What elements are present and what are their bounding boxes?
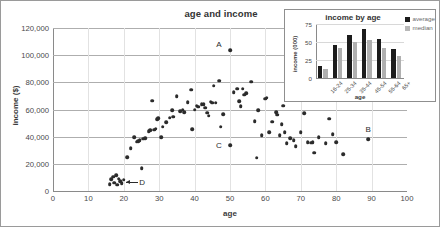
inset-bar-median (367, 40, 371, 78)
inset-category-label: 65+ (401, 80, 412, 91)
scatter-point (218, 79, 222, 83)
scatter-point (281, 104, 285, 108)
inset-bar-average (347, 35, 351, 78)
scatter-point (172, 115, 176, 119)
main-x-axis-line (53, 191, 407, 192)
scatter-point (271, 120, 275, 124)
inset-bar-average (391, 49, 395, 78)
gridline-vertical (230, 28, 231, 191)
x-axis-tick-label: 20 (120, 194, 129, 203)
x-axis-tick-label: 0 (51, 194, 55, 203)
inset-legend-item-median: median (405, 24, 433, 31)
inset-y-tick-label: 75 (296, 21, 312, 28)
inset-bar-average (318, 66, 322, 78)
scatter-point (191, 128, 195, 132)
scatter-point (285, 142, 289, 146)
scatter-point (267, 130, 271, 134)
scatter-point (278, 133, 282, 137)
scatter-point (154, 127, 158, 131)
inset-legend-label: average (413, 15, 435, 22)
scatter-point (327, 117, 331, 121)
scatter-point (366, 138, 370, 142)
inset-bar-median (382, 48, 386, 78)
scatter-point (207, 114, 211, 118)
gridline-vertical (159, 28, 160, 191)
scatter-point (212, 84, 216, 88)
scatter-point (175, 95, 179, 99)
x-axis-tick-label: 70 (297, 194, 306, 203)
scatter-point (120, 182, 124, 186)
inset-y-tick-label: 25 (296, 57, 312, 64)
scatter-point (186, 101, 190, 105)
point-annotation-c: C (216, 141, 222, 150)
gridline-vertical (265, 28, 266, 191)
scatter-point (265, 96, 269, 100)
scatter-point (228, 144, 232, 148)
scatter-point (292, 138, 296, 142)
point-annotation-d: D (139, 178, 145, 187)
point-annotation-a: A (216, 40, 221, 49)
inset-gridline (316, 24, 404, 25)
inset-bar-median (397, 56, 401, 78)
inset-bar-median (353, 42, 357, 78)
scatter-point (317, 135, 321, 139)
inset-bar-chart: income by age income (000) age 0255075 1… (284, 9, 436, 102)
scatter-point (150, 99, 154, 103)
x-axis-tick-label: 40 (190, 194, 199, 203)
y-axis-tick-label: 60,000 (3, 105, 49, 114)
scatter-point (160, 136, 164, 140)
scatter-point (294, 144, 298, 148)
y-axis-tick-label: 100,000 (3, 51, 49, 60)
scatter-point (161, 125, 165, 129)
x-axis-tick-label: 60 (261, 194, 270, 203)
x-axis-tick-label: 30 (155, 194, 164, 203)
scatter-point (249, 80, 253, 84)
scatter-point (232, 90, 236, 94)
scatter-point (303, 112, 307, 116)
chart-frame: age and income income ($) age 020,00040,… (0, 0, 440, 227)
scatter-point (276, 113, 280, 117)
scatter-point (221, 112, 225, 116)
scatter-point (244, 92, 248, 96)
scatter-point (235, 87, 239, 91)
point-annotation-b: B (365, 125, 370, 134)
scatter-point (239, 104, 243, 108)
scatter-point (334, 140, 338, 144)
scatter-point (140, 167, 144, 171)
scatter-point (126, 156, 130, 160)
scatter-point (237, 99, 241, 103)
inset-chart-title: income by age (299, 13, 407, 22)
x-axis-tick-label: 80 (332, 194, 341, 203)
scatter-point (253, 120, 257, 124)
scatter-point (324, 141, 328, 145)
scatter-point (182, 111, 186, 115)
scatter-point (193, 108, 197, 112)
x-axis-tick-label: 50 (226, 194, 235, 203)
scatter-point (228, 49, 232, 53)
y-axis-tick-label: 80,000 (3, 78, 49, 87)
y-axis-tick-label: 0 (3, 187, 49, 196)
scatter-point (283, 130, 287, 134)
inset-legend-label: median (413, 24, 433, 31)
scatter-point (311, 140, 315, 144)
scatter-point (299, 131, 303, 135)
inset-y-tick-label: 50 (296, 39, 312, 46)
scatter-point (157, 116, 161, 120)
scatter-point (255, 156, 259, 160)
scatter-point (164, 121, 168, 125)
annotation-arrow-d (126, 182, 138, 183)
scatter-point (341, 153, 345, 157)
scatter-point (189, 88, 193, 92)
scatter-point (170, 109, 174, 113)
scatter-point (257, 108, 261, 112)
inset-bar-average (362, 29, 366, 78)
gridline-vertical (124, 28, 125, 191)
scatter-point (122, 178, 126, 182)
y-axis-tick-label: 40,000 (3, 132, 49, 141)
scatter-point (260, 133, 264, 137)
scatter-point (219, 125, 223, 129)
inset-bar-average (333, 45, 337, 78)
inset-gridline (316, 42, 404, 43)
x-axis-tick-label: 100 (401, 194, 414, 203)
scatter-point (129, 146, 133, 150)
